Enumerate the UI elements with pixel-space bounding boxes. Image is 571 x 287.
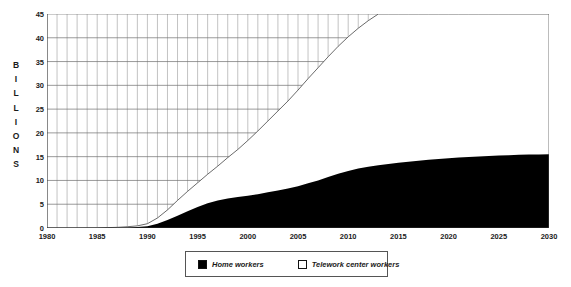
legend-label-telework-center-workers: Telework center workers [312, 260, 400, 269]
y-axis-tick-label: 40 [36, 33, 44, 42]
y-axis-tick-label: 10 [36, 176, 44, 185]
legend-swatch-home-workers [198, 260, 207, 269]
y-axis-title-letter: N [13, 143, 19, 157]
y-axis-title-letter: L [13, 86, 18, 100]
x-axis-tick-label: 1995 [189, 232, 206, 241]
x-axis-tick-label: 1990 [139, 232, 156, 241]
x-axis-tick-label: 2015 [390, 232, 407, 241]
x-axis-tick-label: 2020 [440, 232, 457, 241]
x-axis-tick-labels: 1980198519901995200020052010201520202025… [0, 232, 571, 246]
legend-label-home-workers: Home workers [212, 260, 264, 269]
chart-figure: BILLIONS 051015202530354045 198019851990… [0, 0, 571, 287]
legend-item-telework-center-workers: Telework center workers [298, 260, 400, 269]
y-axis-title-letter: B [13, 58, 19, 72]
x-axis-tick-label: 1985 [89, 232, 106, 241]
legend-swatch-telework-center-workers [298, 260, 307, 269]
y-axis-title-letter: S [13, 157, 19, 171]
legend-item-home-workers: Home workers [198, 260, 264, 269]
y-axis-tick-label: 35 [36, 57, 44, 66]
y-axis-title-letter: O [13, 129, 20, 143]
x-axis-tick-label: 2025 [490, 232, 507, 241]
y-axis-tick-label: 45 [36, 10, 44, 19]
x-axis-tick-label: 1980 [39, 232, 56, 241]
x-axis-tick-label: 2000 [239, 232, 256, 241]
y-axis-title-letter: I [15, 115, 17, 129]
y-axis-title: BILLIONS [8, 58, 24, 172]
y-axis-tick-label: 30 [36, 81, 44, 90]
chart-legend: Home workers Telework center workers [185, 251, 388, 277]
plot-area [47, 14, 549, 228]
y-axis-tick-label: 15 [36, 152, 44, 161]
x-axis-tick-label: 2030 [541, 232, 558, 241]
x-axis-tick-label: 2010 [340, 232, 357, 241]
x-axis-tick-label: 2005 [290, 232, 307, 241]
y-axis-tick-label: 20 [36, 128, 44, 137]
y-axis-tick-label: 25 [36, 105, 44, 114]
chart-canvas [47, 14, 549, 228]
y-axis-title-letter: I [15, 72, 17, 86]
y-axis-title-letter: L [13, 101, 18, 115]
y-axis-tick-label: 5 [40, 200, 44, 209]
